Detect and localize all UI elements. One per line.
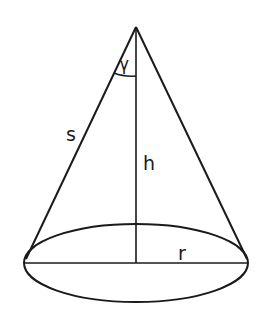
height-label: h <box>143 152 155 174</box>
slant-height-label: s <box>66 123 76 145</box>
cone-diagram: γ s h r <box>0 0 263 323</box>
radius-label: r <box>178 242 186 264</box>
angle-gamma-label: γ <box>119 54 129 74</box>
